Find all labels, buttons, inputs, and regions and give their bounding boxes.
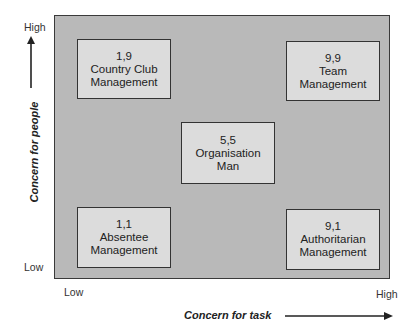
- cell-country-club: 1,9 Country Club Management: [77, 39, 171, 99]
- cell-absentee: 1,1 Absentee Management: [77, 207, 171, 268]
- cell-coords: 1,9: [116, 50, 132, 63]
- y-tick-low: Low: [24, 261, 43, 273]
- cell-line1: Country Club: [90, 63, 157, 76]
- y-axis-title: Concern for people: [28, 97, 40, 207]
- x-axis-title: Concern for task: [184, 309, 271, 321]
- x-tick-high: High: [376, 288, 398, 300]
- cell-line2: Management: [299, 246, 366, 259]
- cell-line1: Team: [319, 65, 347, 78]
- x-tick-low: Low: [64, 286, 83, 298]
- cell-line1: Absentee: [100, 231, 149, 244]
- cell-line1: Organisation: [195, 147, 260, 160]
- cell-coords: 1,1: [116, 218, 132, 231]
- cell-coords: 5,5: [220, 134, 236, 147]
- y-axis-arrow-icon: [26, 36, 36, 90]
- cell-organisation-man: 5,5 Organisation Man: [181, 122, 275, 184]
- cell-coords: 9,9: [325, 52, 341, 65]
- cell-line2: Man: [217, 160, 239, 173]
- cell-line2: Management: [90, 76, 157, 89]
- cell-team: 9,9 Team Management: [286, 41, 380, 101]
- cell-line2: Management: [90, 244, 157, 257]
- cell-line1: Authoritarian: [300, 233, 365, 246]
- cell-line2: Management: [299, 78, 366, 91]
- cell-authoritarian: 9,1 Authoritarian Management: [286, 209, 380, 270]
- y-tick-high: High: [24, 21, 46, 33]
- x-axis-arrow-icon: [285, 311, 395, 321]
- cell-coords: 9,1: [325, 220, 341, 233]
